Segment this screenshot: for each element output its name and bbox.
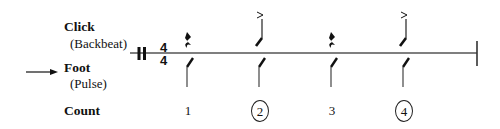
notation-staff: 4 4: [0, 0, 500, 129]
time-signature: 4 4: [160, 40, 168, 68]
foot-slash-note-icon: [259, 58, 265, 87]
accented-slash-note-icon: [256, 12, 263, 46]
foot-slash-note-icon: [187, 58, 193, 87]
foot-slash-note-icon: [331, 58, 337, 87]
quarter-rest-icon: [329, 32, 335, 48]
foot-slash-note-icon: [403, 58, 409, 87]
time-signature-bottom: 4: [160, 53, 168, 68]
right-arrow-icon: [26, 69, 58, 75]
accented-slash-note-icon: [400, 12, 407, 46]
quarter-rest-icon: [185, 32, 191, 48]
